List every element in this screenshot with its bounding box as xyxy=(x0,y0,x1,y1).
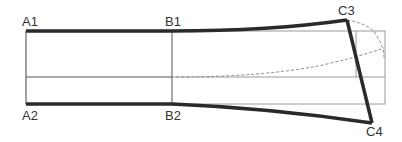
label-a2: A2 xyxy=(22,109,38,122)
label-b2: B2 xyxy=(165,109,181,122)
label-c3: C3 xyxy=(338,4,355,17)
label-a1: A1 xyxy=(22,15,38,28)
dashed-curve-middle xyxy=(176,48,384,77)
label-b1: B1 xyxy=(165,15,181,28)
guide-rectangle xyxy=(26,31,385,104)
pattern-diagram xyxy=(0,0,402,142)
bottom-outline xyxy=(26,104,372,123)
label-c4: C4 xyxy=(366,125,383,138)
side-outline xyxy=(347,20,372,123)
top-outline xyxy=(26,20,347,31)
